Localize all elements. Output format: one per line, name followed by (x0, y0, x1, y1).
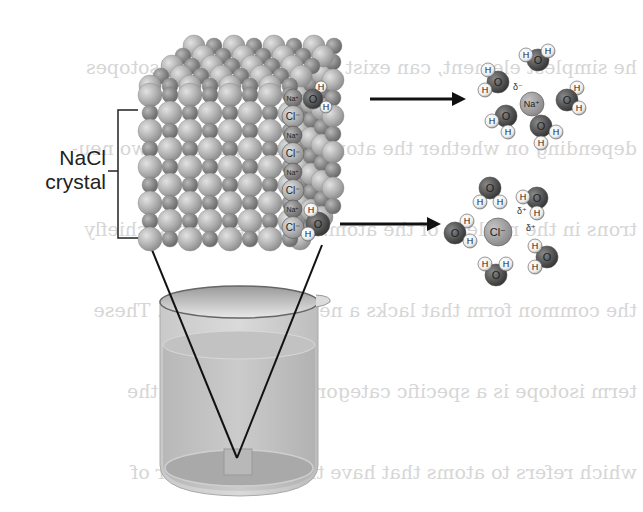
chloride-ion: Cl⁻ (282, 143, 304, 165)
svg-text:H: H (305, 229, 312, 239)
hydrogen-atom: H (485, 114, 499, 128)
hydrogen-atom: H (501, 125, 515, 139)
svg-text:Cl⁻: Cl⁻ (286, 185, 300, 196)
svg-text:O: O (451, 227, 460, 239)
svg-text:Cl⁻: Cl⁻ (286, 222, 300, 233)
svg-text:H: H (534, 208, 541, 218)
svg-text:H: H (477, 197, 484, 207)
hydrogen-atom: H (320, 101, 332, 113)
water-molecule: OHH (478, 63, 509, 97)
chloride-ion: Cl⁻ (282, 180, 304, 202)
hydrogen-atom: H (493, 195, 507, 209)
svg-text:Na⁺: Na⁺ (287, 206, 300, 213)
svg-text:H: H (576, 103, 583, 113)
svg-text:O: O (543, 251, 552, 263)
svg-text:O: O (486, 182, 495, 194)
svg-text:H: H (464, 216, 471, 226)
svg-text:H: H (503, 259, 510, 269)
svg-text:H: H (532, 241, 539, 251)
hydrogen-atom: H (478, 257, 492, 271)
crystal-bracket (108, 110, 138, 238)
chloride-ion: Cl⁻ (282, 106, 304, 128)
svg-text:Na⁺: Na⁺ (287, 169, 300, 176)
svg-text:O: O (533, 192, 542, 204)
svg-text:H: H (523, 50, 530, 60)
svg-text:H: H (545, 46, 552, 56)
svg-text:O: O (563, 94, 572, 106)
chloride-ion-center: Cl⁻ (484, 218, 512, 246)
svg-text:O: O (494, 76, 503, 88)
hydrogen-atom: H (463, 234, 477, 248)
svg-text:H: H (553, 127, 560, 137)
hydrogen-atom: H (478, 83, 492, 97)
sodium-ion: Na⁺ (284, 200, 302, 218)
hydrogen-atom: H (301, 227, 315, 241)
hydrogen-atom: H (499, 257, 513, 271)
svg-text:H: H (308, 205, 315, 215)
svg-text:O: O (492, 269, 501, 281)
svg-text:Na⁺: Na⁺ (287, 95, 300, 102)
svg-text:H: H (538, 138, 545, 148)
svg-text:H: H (485, 65, 492, 75)
hydrogen-atom: H (530, 206, 544, 220)
svg-text:O: O (502, 110, 511, 122)
water-molecule: OHH (478, 257, 513, 286)
svg-text:H: H (520, 192, 527, 202)
svg-text:O: O (534, 54, 543, 66)
sodium-ion-center: Na⁺ (520, 92, 544, 116)
chloride-ion: Cl⁻ (282, 217, 304, 239)
hydrogen-atom: H (528, 260, 542, 274)
hydrogen-atom: H (516, 190, 530, 204)
chloride-hydration-shell: Cl⁻OHHOHHHOHOHHOHHδ⁺δ⁺ (444, 177, 558, 286)
svg-text:Cl⁻: Cl⁻ (490, 226, 506, 238)
hydrogen-atom: H (541, 44, 555, 58)
water-molecule: OHH (530, 115, 563, 150)
svg-text:Na⁺: Na⁺ (287, 132, 300, 139)
svg-text:H: H (532, 262, 539, 272)
hydrogen-atom: H (534, 136, 548, 150)
svg-text:Cl⁻: Cl⁻ (286, 111, 300, 122)
svg-text:Cl⁻: Cl⁻ (286, 148, 300, 159)
hydrogen-atom: H (304, 203, 318, 217)
svg-text:H: H (323, 102, 330, 112)
water-molecule: HOH (444, 214, 477, 248)
hydrogen-atom: H (549, 125, 563, 139)
arrow-to-sodium (370, 92, 466, 106)
hydrogen-atom: H (519, 48, 533, 62)
partial-charge-delta-plus: δ⁺ (526, 223, 536, 233)
svg-text:H: H (489, 116, 496, 126)
hydrogen-atom: H (481, 63, 495, 77)
svg-text:H: H (467, 236, 474, 246)
svg-text:H: H (497, 197, 504, 207)
sodium-hydration-shell: Na⁺OHHOHHHOHOHHOHHδ⁻ (478, 44, 586, 150)
svg-text:H: H (505, 127, 512, 137)
water-molecule: HOH (556, 81, 586, 115)
partial-charge-delta-plus: δ⁺ (517, 206, 527, 216)
sodium-ion: Na⁺ (284, 126, 302, 144)
partial-charge-delta-minus: δ⁻ (513, 82, 523, 92)
hydrogen-atom: H (528, 239, 542, 253)
beaker (160, 286, 330, 496)
svg-text:H: H (574, 83, 581, 93)
crystal-label-line2: crystal (30, 170, 106, 194)
svg-text:H: H (482, 259, 489, 269)
svg-text:O: O (537, 120, 546, 132)
crystal-label-line1: NaCl (30, 146, 106, 170)
oxygen-atom: O (444, 222, 466, 244)
water-molecule: OHH (519, 44, 555, 71)
sodium-ion: Na⁺ (284, 89, 302, 107)
sodium-ion: Na⁺ (284, 163, 302, 181)
arrow-to-chloride (340, 217, 441, 231)
hydrogen-atom: H (572, 101, 586, 115)
oxygen-atom: O (530, 115, 552, 137)
svg-text:Na⁺: Na⁺ (524, 99, 541, 109)
water-molecule: OHH (473, 177, 507, 209)
crystal-label: NaCl crystal (30, 146, 106, 194)
svg-text:O: O (309, 93, 318, 105)
svg-text:O: O (314, 218, 323, 230)
hydrogen-atom: H (473, 195, 487, 209)
diagram-canvas: Na⁺Cl⁻Na⁺Cl⁻Na⁺Cl⁻Na⁺Cl⁻ Na⁺OHHOHHHOHOHH… (0, 0, 643, 512)
water-molecule: OHH (528, 239, 558, 274)
svg-text:H: H (482, 85, 489, 95)
water-molecule: OHH (485, 105, 517, 139)
